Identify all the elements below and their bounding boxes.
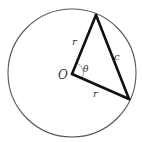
chord-label: c <box>114 51 120 62</box>
circle-diagram: O r r c θ <box>0 0 142 142</box>
radius-bottom-label: r <box>93 88 99 99</box>
center-label: O <box>58 68 68 82</box>
angle-label: θ <box>83 64 89 74</box>
radius-top-label: r <box>72 36 78 47</box>
